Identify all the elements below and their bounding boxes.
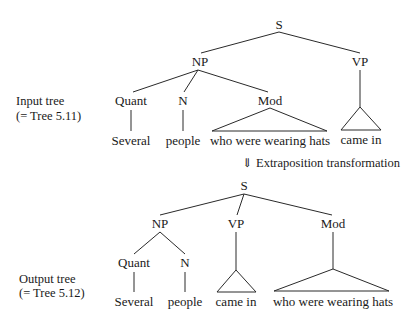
output-node-vp: VP [228, 216, 245, 231]
input-leaf-people: people [166, 133, 201, 148]
input-tree: Input tree (= Tree 5.11) S NP VP came in… [16, 17, 382, 148]
input-node-mod: Mod [258, 93, 283, 108]
edge-s-mod [244, 194, 332, 215]
input-node-quant: Quant [115, 93, 147, 108]
edge-np-quant [133, 70, 198, 92]
output-tree: Output tree (= Tree 5.12) S NP Quant Sev… [19, 178, 393, 309]
output-tree-reference: (= Tree 5.12) [19, 286, 85, 300]
edge-np-n [160, 232, 185, 254]
edge-np-mod [198, 70, 268, 92]
output-node-mod: Mod [321, 216, 346, 231]
output-leaf-came-in: came in [216, 294, 257, 309]
output-node-s: S [240, 178, 247, 193]
output-tree-caption: Output tree [19, 272, 76, 286]
input-leaf-came-in: came in [341, 132, 382, 147]
mod-triangle [274, 269, 389, 291]
input-leaf-several: Several [112, 133, 151, 148]
transformation-label: ⇓ Extraposition transformation [242, 156, 401, 170]
output-leaf-several: Several [115, 294, 154, 309]
output-node-np: NP [152, 216, 169, 231]
edge-np-quant [134, 232, 160, 254]
syntax-tree-diagram: Input tree (= Tree 5.11) S NP VP came in… [0, 0, 416, 320]
output-node-quant: Quant [118, 255, 150, 270]
input-leaf-who-were-wearing-hats: who were wearing hats [210, 133, 330, 148]
input-node-s: S [275, 17, 282, 32]
edge-s-vp [279, 32, 360, 53]
vp-triangle [217, 270, 256, 292]
input-tree-caption: Input tree [16, 94, 65, 108]
double-down-arrow-icon: ⇓ [242, 156, 252, 170]
output-leaf-people: people [168, 294, 203, 309]
transformation-name: Extraposition transformation [256, 156, 401, 170]
input-node-n: N [178, 93, 188, 108]
input-tree-reference: (= Tree 5.11) [16, 109, 81, 123]
edge-np-n [184, 70, 198, 92]
vp-triangle [341, 107, 381, 130]
edge-s-np [201, 32, 279, 53]
edge-s-vp [237, 194, 244, 215]
mod-triangle [212, 108, 327, 131]
input-node-vp: VP [352, 54, 369, 69]
output-node-n: N [180, 255, 190, 270]
output-leaf-who-were-wearing-hats: who were wearing hats [273, 294, 393, 309]
input-node-np: NP [192, 54, 209, 69]
edge-s-np [160, 194, 244, 215]
